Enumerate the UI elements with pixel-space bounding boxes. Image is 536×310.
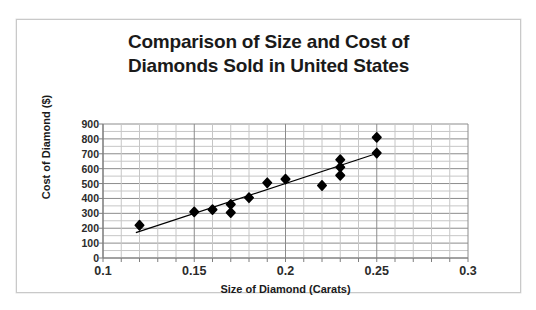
y-axis-tick-label: 500 [65, 179, 99, 190]
y-axis-tick-label: 200 [65, 223, 99, 234]
y-axis-tick-label: 700 [65, 149, 99, 160]
y-axis-tick-label: 300 [65, 208, 99, 219]
y-axis-tick-label: 800 [65, 134, 99, 145]
chart-figure-frame: Comparison of Size and Cost of Diamonds … [16, 19, 521, 293]
data-point [135, 221, 143, 230]
data-point [318, 181, 326, 190]
y-axis-tick-labels: 9008007006005004003002001000 [61, 124, 99, 258]
y-axis-tick-label: 100 [65, 238, 99, 249]
data-point [373, 133, 381, 142]
data-point [373, 148, 381, 157]
plot-area [103, 124, 468, 258]
x-axis-tick-label: 0.1 [77, 265, 129, 278]
x-axis-tick-label: 0.25 [351, 265, 403, 278]
chart-series-layer [103, 124, 468, 258]
chart-title: Comparison of Size and Cost of Diamonds … [17, 30, 520, 78]
data-point [227, 208, 235, 217]
x-axis-tick-label: 0.3 [442, 265, 494, 278]
x-axis-tick-labels: 0.10.150.20.250.3 [103, 265, 468, 281]
x-axis-title: Size of Diamond (Carats) [103, 283, 468, 295]
screenshot-root: Comparison of Size and Cost of Diamonds … [0, 0, 536, 310]
y-axis-tick-label: 900 [65, 119, 99, 130]
y-axis-tick-label: 400 [65, 193, 99, 204]
data-point [336, 171, 344, 180]
y-axis-tick-label: 600 [65, 164, 99, 175]
chart-title-line-2: Diamonds Sold in United States [17, 54, 520, 78]
data-point [263, 178, 271, 187]
x-axis-tick-label: 0.2 [260, 265, 312, 278]
chart-title-line-1: Comparison of Size and Cost of [17, 30, 520, 54]
y-axis-title: Cost of Diamond ($) [40, 92, 52, 202]
y-axis-tick-label: 0 [65, 253, 99, 264]
x-axis-tick-label: 0.15 [168, 265, 220, 278]
